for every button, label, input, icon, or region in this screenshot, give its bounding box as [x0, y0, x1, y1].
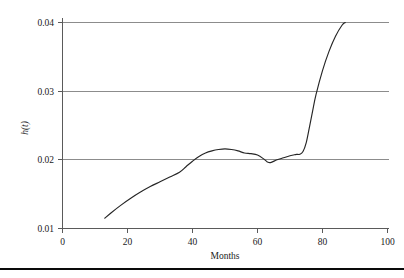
- y-axis-title: h(t): [20, 121, 31, 135]
- x-tick-marks: [63, 229, 388, 234]
- x-tick-label-4: 80: [318, 237, 328, 247]
- y-tick-label-0: 0.01: [37, 224, 54, 234]
- figure-container: 0.04 0.03 0.02 0.01 0 20 40 60 80 100 Mo…: [0, 0, 404, 278]
- y-tick-labels: 0.04 0.03 0.02 0.01: [37, 18, 54, 234]
- gridlines: [62, 23, 389, 229]
- axes-lines: [62, 18, 389, 232]
- x-tick-label-2: 40: [188, 237, 198, 247]
- x-axis-title: Months: [210, 251, 239, 261]
- x-tick-label-0: 0: [60, 237, 65, 247]
- x-tick-label-5: 100: [380, 237, 395, 247]
- data-series-line: [105, 23, 346, 219]
- x-tick-labels: 0 20 40 60 80 100: [60, 237, 395, 247]
- y-tick-marks: [58, 23, 62, 229]
- y-tick-label-2: 0.03: [37, 87, 54, 97]
- x-tick-label-3: 60: [253, 237, 263, 247]
- x-tick-label-1: 20: [123, 237, 133, 247]
- line-chart: 0.04 0.03 0.02 0.01 0 20 40 60 80 100 Mo…: [0, 0, 404, 278]
- y-tick-label-3: 0.04: [37, 18, 54, 28]
- y-tick-label-1: 0.02: [37, 155, 54, 165]
